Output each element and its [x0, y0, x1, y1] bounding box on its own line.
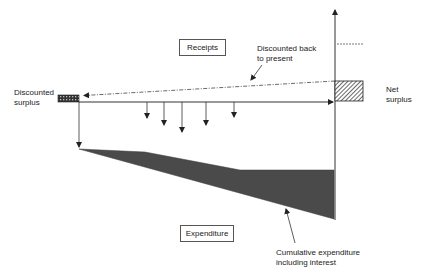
discounted-back-label: Discounted back to present	[257, 44, 316, 64]
discount-line	[84, 81, 335, 96]
discounted-surplus-box	[58, 95, 79, 102]
net-surplus-label: Net surplus	[386, 85, 412, 105]
cumulative-expenditure-area	[79, 149, 334, 219]
cumulative-expenditure-label: Cumulative expenditure including interes…	[276, 248, 360, 268]
receipts-label-box: Receipts	[179, 39, 226, 56]
receipt-arrows	[147, 102, 234, 132]
net-surplus-box	[335, 81, 363, 101]
cumulative-expenditure-pointer	[286, 209, 295, 243]
discounted-surplus-label: Discounted surplus	[14, 88, 54, 108]
expenditure-label-box: Expenditure	[180, 225, 234, 242]
discounted-back-pointer	[251, 65, 262, 80]
